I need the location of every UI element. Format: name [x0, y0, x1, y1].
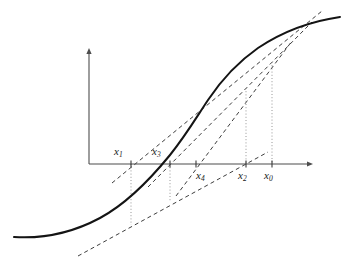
- function-curve: [14, 17, 340, 237]
- secant-line-through-x4: [176, 41, 292, 196]
- tick-label-subscript-x0: 0: [269, 174, 273, 183]
- secant-line-through-x2: [78, 152, 268, 256]
- secant-line-through-x1: [112, 11, 322, 183]
- tick-label-x1: x1: [114, 146, 123, 157]
- horizontal-axis-arrow-icon: [307, 161, 313, 166]
- tick-label-subscript-x4: 4: [201, 174, 205, 183]
- drop-lines-group: [131, 62, 272, 225]
- vertical-axis-arrow-icon: [86, 48, 91, 54]
- tick-label-x4: x4: [196, 170, 205, 181]
- tick-label-subscript-x3: 3: [157, 150, 161, 159]
- secant-line-through-x3: [148, 22, 312, 187]
- diagram-svg: [0, 0, 349, 263]
- tick-label-x0: x0: [264, 170, 273, 181]
- tick-label-x3: x3: [152, 146, 161, 157]
- tick-label-subscript-x1: 1: [119, 150, 123, 159]
- tick-label-x2: x2: [238, 170, 247, 181]
- secant-lines-group: [78, 11, 322, 256]
- figure-canvas: x1x3x4x2x0: [0, 0, 349, 263]
- tick-label-subscript-x2: 2: [243, 174, 247, 183]
